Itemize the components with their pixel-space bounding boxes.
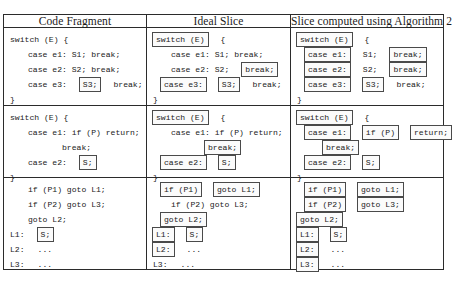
column-header-algorithm-2-slice: Slice computed using Algorithm 2 xyxy=(291,15,444,28)
code-token: break; xyxy=(111,78,144,91)
sliced-token: goto L1; xyxy=(213,182,260,197)
code-token: L1: xyxy=(8,228,27,241)
code-token: goto L2; xyxy=(26,213,69,226)
code-line: L3:... xyxy=(151,257,287,272)
code-line: goto L2; xyxy=(295,212,440,227)
code-token: { xyxy=(363,111,372,124)
sliced-token: case e1: xyxy=(304,125,351,140)
code-token: if (P2) goto L3; xyxy=(169,198,251,211)
code-line: goto L2; xyxy=(151,212,287,227)
code-token: ... xyxy=(179,258,198,271)
sliced-token: break; xyxy=(389,47,426,62)
code-block: switch (E) {case e1: if (P) return;break… xyxy=(4,106,146,177)
code-line: L2:... xyxy=(151,242,287,257)
code-token: switch (E) { xyxy=(8,111,70,124)
code-line: L1:S; xyxy=(151,227,287,242)
code-token: case e1: S1; break; xyxy=(169,48,265,61)
table-row: switch (E) {case e1: if (P) return;break… xyxy=(4,106,444,178)
sliced-token: goto L3; xyxy=(357,197,404,212)
code-block: switch (E){case e1: if (P) return;break;… xyxy=(147,106,290,177)
code-token: ... xyxy=(185,243,204,256)
code-line: case e1: S1; break; xyxy=(8,47,143,62)
code-line: case e3:S3;break; xyxy=(8,77,143,92)
cell-code-fragment: switch (E) {case e1: if (P) return;break… xyxy=(4,106,147,178)
sliced-token: L1: xyxy=(296,227,319,242)
code-token: break; xyxy=(250,78,283,91)
code-line: L3:... xyxy=(8,257,143,272)
code-line: case e3:S3;break; xyxy=(151,77,287,92)
table-body: switch (E) {case e1: S1; break;case e2: … xyxy=(4,28,444,270)
code-token: L3: xyxy=(151,258,170,271)
code-line: break; xyxy=(151,140,287,155)
code-token: S1; xyxy=(361,48,380,61)
code-block: switch (E){case e1: S1; break;case e2: S… xyxy=(147,28,290,105)
code-block: switch (E) {case e1: S1; break;case e2: … xyxy=(4,28,146,105)
code-line: break; xyxy=(8,140,143,155)
code-token: case e2: xyxy=(26,156,69,169)
sliced-token: break; xyxy=(241,62,278,77)
code-token: { xyxy=(363,33,372,46)
code-token: case e2: S2; xyxy=(169,63,231,76)
code-line: } xyxy=(8,92,143,107)
code-token: case e1: if (P) return; xyxy=(26,126,142,139)
code-line: case e2: S2;break; xyxy=(151,62,287,77)
sliced-token: case e3: xyxy=(304,77,351,92)
sliced-token: S; xyxy=(218,155,236,170)
code-line: } xyxy=(151,92,287,107)
header-row: Code Fragment Ideal Slice Slice computed… xyxy=(4,15,444,28)
cell-code-fragment: switch (E) {case e1: S1; break;case e2: … xyxy=(4,28,147,106)
sliced-token: S3; xyxy=(79,77,102,92)
sliced-token: S; xyxy=(330,227,348,242)
code-block: if (P1) goto L1;if (P2) goto L3;goto L2;… xyxy=(4,178,146,269)
code-token: switch (E) { xyxy=(8,33,70,46)
sliced-token: case e2: xyxy=(304,155,351,170)
code-line: if (P2) goto L3; xyxy=(8,197,143,212)
sliced-token: switch (E) xyxy=(152,110,209,125)
code-token: case e1: S1; break; xyxy=(26,48,122,61)
code-line: L2:... xyxy=(8,242,143,257)
sliced-token: return; xyxy=(410,125,452,140)
code-token: ... xyxy=(329,243,348,256)
cell-ideal-slice: switch (E){case e1: if (P) return;break;… xyxy=(147,106,291,178)
code-line: L3:... xyxy=(295,257,440,272)
code-line: case e3:S3;break; xyxy=(295,77,440,92)
cell-algorithm-2-slice: switch (E){case e1:if (P)return;break;ca… xyxy=(291,106,444,178)
sliced-token: S; xyxy=(37,227,55,242)
code-token: break; xyxy=(60,141,93,154)
sliced-token: if (P2) xyxy=(304,197,346,212)
code-line: case e1:if (P)return; xyxy=(295,125,440,140)
code-token: { xyxy=(219,111,228,124)
code-line: L2:... xyxy=(295,242,440,257)
code-token: ... xyxy=(36,243,55,256)
code-line: L1:S; xyxy=(8,227,143,242)
sliced-token: S; xyxy=(362,155,380,170)
sliced-token: break; xyxy=(389,62,426,77)
sliced-token: if (P1) xyxy=(304,182,346,197)
sliced-token: S; xyxy=(186,227,204,242)
code-line: case e2:S; xyxy=(295,155,440,170)
code-token: ... xyxy=(329,258,348,271)
sliced-token: switch (E) xyxy=(296,32,353,47)
table-row: if (P1) goto L1;if (P2) goto L3;goto L2;… xyxy=(4,178,444,270)
code-token: break; xyxy=(394,78,427,91)
code-block: if (P1)goto L1;if (P2)goto L3;goto L2;L1… xyxy=(291,178,443,269)
sliced-token: break; xyxy=(322,140,359,155)
sliced-token: break; xyxy=(204,140,241,155)
code-token: if (P2) goto L3; xyxy=(26,198,108,211)
cell-ideal-slice: if (P1)goto L1;if (P2) goto L3;goto L2;L… xyxy=(147,178,291,270)
code-line: if (P1)goto L1; xyxy=(151,182,287,197)
cell-algorithm-2-slice: if (P1)goto L1;if (P2)goto L3;goto L2;L1… xyxy=(291,178,444,270)
code-block: switch (E){case e1:if (P)return;break;ca… xyxy=(291,106,443,177)
code-line: case e1: S1; break; xyxy=(151,47,287,62)
code-token: ... xyxy=(36,258,55,271)
code-line: switch (E){ xyxy=(151,110,287,125)
cell-ideal-slice: switch (E){case e1: S1; break;case e2: S… xyxy=(147,28,291,106)
code-token: } xyxy=(295,93,304,106)
table-header: Code Fragment Ideal Slice Slice computed… xyxy=(4,15,444,28)
sliced-token: L2: xyxy=(296,242,319,257)
code-line: case e2:S; xyxy=(151,155,287,170)
code-block: switch (E){case e1:S1;break;case e2:S2;b… xyxy=(291,28,443,105)
code-block: if (P1)goto L1;if (P2) goto L3;goto L2;L… xyxy=(147,178,290,269)
code-token: case e3: xyxy=(26,78,69,91)
